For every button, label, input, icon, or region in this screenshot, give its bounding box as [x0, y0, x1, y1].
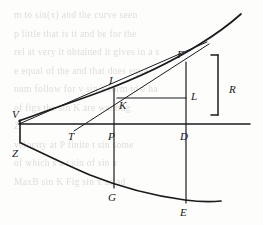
tangent-line-T-to-F: [74, 44, 209, 131]
point-labels: V Z T P D I K L F G E R: [12, 48, 236, 218]
upper-curve: [19, 14, 241, 121]
figure-page: m to sin(x) and the curve seen p little …: [0, 0, 263, 225]
point-label-P: P: [107, 130, 115, 142]
point-label-L: L: [190, 90, 197, 102]
point-label-K: K: [118, 99, 127, 111]
point-label-F: F: [176, 48, 184, 60]
point-label-I: I: [108, 74, 114, 86]
bracket-label-R: R: [228, 83, 236, 95]
point-label-Z: Z: [12, 147, 19, 159]
point-label-D: D: [179, 130, 188, 142]
geometric-figure: V Z T P D I K L F G E R: [0, 0, 263, 225]
point-label-T: T: [68, 130, 75, 142]
point-label-V: V: [12, 108, 20, 120]
lower-curve: [21, 143, 221, 202]
point-label-E: E: [179, 206, 187, 218]
point-label-G: G: [108, 191, 116, 203]
measure-bracket-R: [211, 55, 218, 115]
